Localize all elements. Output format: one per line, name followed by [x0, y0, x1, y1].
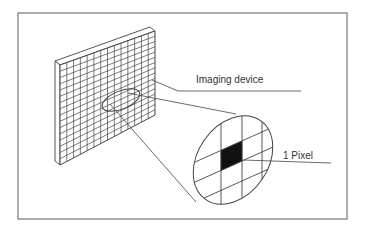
imaging-device-panel: [55, 27, 155, 165]
one-pixel-label: 1 Pixel: [283, 151, 313, 161]
diagram-figure: [0, 0, 365, 230]
diagram-canvas: Imaging device 1 Pixel: [0, 0, 365, 230]
magnified-pixel-circle: [177, 100, 289, 224]
imaging-device-label: Imaging device: [196, 75, 263, 85]
